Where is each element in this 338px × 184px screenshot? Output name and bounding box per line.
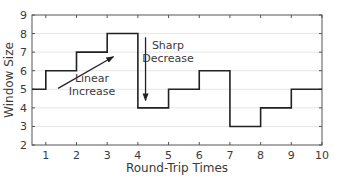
y-tick-label: 5 <box>20 83 27 96</box>
annotation-text: Linear <box>75 72 110 85</box>
y-tick-label: 2 <box>20 139 27 152</box>
annotation-text: Decrease <box>142 52 194 65</box>
y-tick-label: 6 <box>20 65 27 78</box>
x-tick-label: 3 <box>104 149 111 162</box>
annotation-text: Sharp <box>152 39 184 52</box>
x-tick-label: 10 <box>315 149 329 162</box>
x-tick-label: 8 <box>257 149 264 162</box>
y-tick-label: 8 <box>20 28 27 41</box>
y-tick-label: 9 <box>20 9 27 22</box>
annotation-text: Increase <box>69 85 116 98</box>
y-axis-ticks: 23456789 <box>20 9 322 152</box>
x-axis-label: Round-Trip Times <box>126 161 228 175</box>
window-size-chart: 12345678910 23456789 LinearIncreaseSharp… <box>0 0 338 184</box>
y-tick-label: 3 <box>20 120 27 133</box>
x-tick-label: 2 <box>73 149 80 162</box>
x-tick-label: 9 <box>288 149 295 162</box>
annotation-linear-increase: LinearIncrease <box>58 57 115 98</box>
y-axis-label: Window Size <box>2 42 16 118</box>
x-tick-label: 1 <box>42 149 49 162</box>
annotations: LinearIncreaseSharpDecrease <box>58 37 194 100</box>
y-tick-label: 7 <box>20 46 27 59</box>
y-tick-label: 4 <box>20 102 27 115</box>
